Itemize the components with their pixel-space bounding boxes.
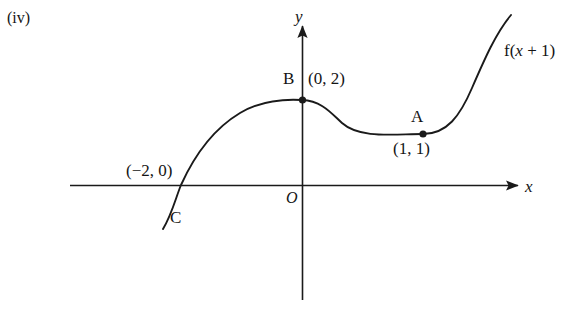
point-a-coordinates: (1, 1) (393, 140, 430, 157)
point-c-label: C (170, 209, 181, 226)
graph-svg (0, 0, 573, 310)
curve-f-x-plus-1 (163, 15, 511, 229)
function-label: f(x + 1) (504, 42, 555, 59)
point-a-marker (419, 130, 426, 137)
part-label: (iv) (7, 10, 30, 26)
x-axis-label: x (525, 178, 533, 195)
point-b-coordinates: (0, 2) (308, 70, 345, 87)
point-a-label: A (411, 108, 423, 125)
x-intercept-label: (−2, 0) (126, 162, 172, 179)
function-label-text: f(x + 1) (504, 41, 555, 60)
figure-canvas: (iv) y x O B (0, 2) A (1, 1) (−2, 0) C f… (0, 0, 573, 310)
point-b-marker (299, 96, 306, 103)
origin-label: O (286, 190, 298, 206)
point-b-label: B (283, 70, 294, 87)
y-axis-label: y (295, 8, 303, 25)
